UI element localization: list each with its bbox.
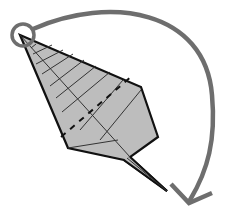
stem-edge [127,158,167,191]
leaf-stem [124,157,167,191]
origami-leaf-diagram [0,0,225,213]
stem-edge [124,160,167,191]
leaf-outline [20,35,167,191]
diagram-svg [0,0,225,213]
leaf-shape [20,35,167,191]
